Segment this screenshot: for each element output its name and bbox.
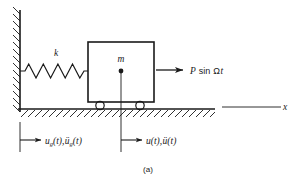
figure-caption: (a)	[143, 165, 153, 174]
mass-paren-t2: (t)	[167, 136, 176, 147]
mass-paren-t: (t),	[151, 136, 162, 147]
fixed-wall	[13, 7, 20, 112]
spring-element	[20, 64, 88, 78]
ground-paren-t: (t),	[53, 136, 64, 147]
spring-stiffness-label: k	[54, 48, 59, 58]
mechanical-system-diagram: k m PsinΩt ug(t),üg(t) u(t),ü(t) x (a)	[0, 0, 297, 183]
force-time-symbol: t	[221, 66, 224, 76]
x-axis-label: x	[282, 102, 288, 112]
applied-force-label: PsinΩt	[189, 66, 224, 76]
svg-text:ug(t),üg(t): ug(t),üg(t)	[45, 136, 82, 147]
ground-support	[18, 109, 215, 117]
ground-paren-t2: (t)	[73, 136, 82, 147]
mass-center-dot	[119, 69, 124, 74]
ground-hatching	[21, 110, 215, 117]
svg-text:PsinΩt: PsinΩt	[189, 66, 224, 76]
svg-text:u(t),ü(t): u(t),ü(t)	[146, 136, 176, 147]
force-omega-symbol: Ω	[213, 66, 220, 76]
figure-container: k m PsinΩt ug(t),üg(t) u(t),ü(t) x (a)	[0, 0, 297, 183]
force-sin-text: sin	[199, 66, 211, 76]
ground-displacement-label: ug(t),üg(t)	[45, 136, 82, 147]
wall-hatching	[13, 7, 20, 112]
mass-displacement-label: u(t),ü(t)	[146, 136, 176, 147]
mass-label: m	[118, 54, 125, 64]
force-magnitude-symbol: P	[189, 66, 196, 76]
